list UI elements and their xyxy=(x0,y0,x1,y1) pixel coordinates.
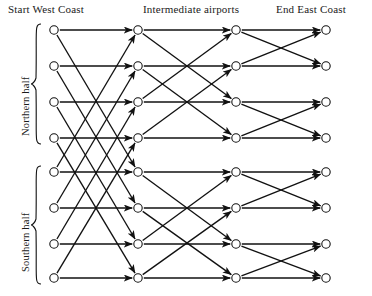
network-node[interactable] xyxy=(232,134,240,142)
edges-layer xyxy=(57,30,321,278)
network-node[interactable] xyxy=(50,204,58,212)
network-node[interactable] xyxy=(134,134,142,142)
network-node[interactable] xyxy=(322,134,330,142)
network-node[interactable] xyxy=(50,240,58,248)
network-node[interactable] xyxy=(50,62,58,70)
diagram-canvas: Start West Coast Intermediate airports E… xyxy=(0,0,372,296)
network-node[interactable] xyxy=(134,204,142,212)
braces-layer xyxy=(31,24,41,284)
network-node[interactable] xyxy=(134,98,142,106)
network-node[interactable] xyxy=(232,98,240,106)
network-node[interactable] xyxy=(134,62,142,70)
network-node[interactable] xyxy=(232,274,240,282)
network-node[interactable] xyxy=(322,168,330,176)
network-node[interactable] xyxy=(50,26,58,34)
network-node[interactable] xyxy=(232,62,240,70)
network-node[interactable] xyxy=(232,240,240,248)
southern-half-brace xyxy=(31,166,41,284)
network-node[interactable] xyxy=(134,240,142,248)
network-node[interactable] xyxy=(232,168,240,176)
network-node[interactable] xyxy=(50,134,58,142)
network-node[interactable] xyxy=(322,204,330,212)
network-node[interactable] xyxy=(232,204,240,212)
network-node[interactable] xyxy=(232,26,240,34)
network-node[interactable] xyxy=(134,168,142,176)
network-node[interactable] xyxy=(322,274,330,282)
network-graph xyxy=(0,0,372,296)
northern-half-brace xyxy=(31,24,41,144)
network-node[interactable] xyxy=(322,26,330,34)
network-node[interactable] xyxy=(322,62,330,70)
network-node[interactable] xyxy=(50,274,58,282)
network-node[interactable] xyxy=(50,168,58,176)
network-node[interactable] xyxy=(134,26,142,34)
network-node[interactable] xyxy=(134,274,142,282)
network-node[interactable] xyxy=(322,98,330,106)
network-node[interactable] xyxy=(322,240,330,248)
network-node[interactable] xyxy=(50,98,58,106)
